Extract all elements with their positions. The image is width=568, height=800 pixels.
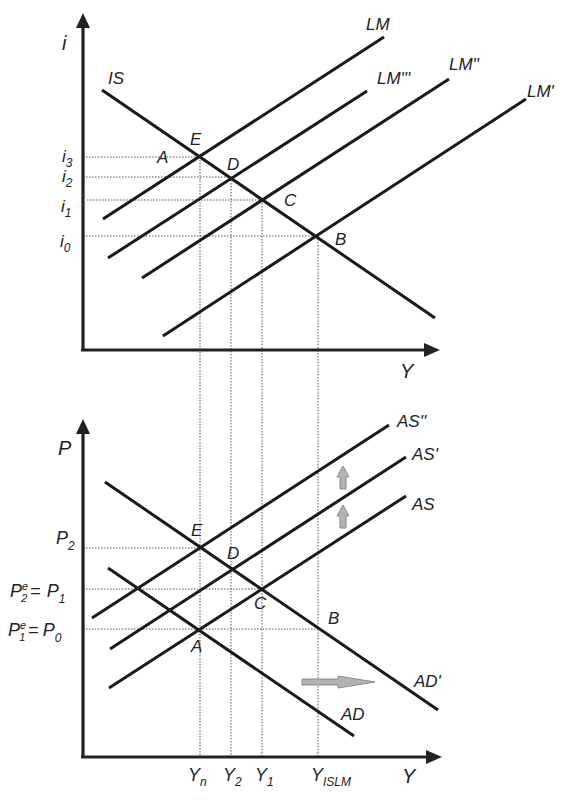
tick-yn: Yn [188,765,207,789]
guide-lines-top [83,157,318,757]
tick-y1: Y1 [255,765,274,789]
point-a-top: A [156,148,168,167]
point-e-top: E [190,130,202,149]
i-axis-label: i [62,32,67,54]
point-a-bottom: A [190,637,202,656]
shift-up-arrow-icon-2 [337,505,349,528]
ad-prime-label: AD' [413,672,442,691]
lm-double-prime-label: LM'' [449,55,480,74]
lm-prime-label: LM' [527,82,555,101]
shift-right-arrow-icon [302,676,375,688]
lm-label: LM [366,15,390,34]
y-axis-top-label: Y [400,360,415,382]
tick-y2: Y2 [223,765,242,789]
tick-p2e-eq-p1: Pe2=P1 [10,580,65,606]
as-prime-curve [110,457,406,649]
point-d-bottom: D [227,544,239,563]
tick-i1: i1 [61,197,71,220]
lm-triple-prime-curve [108,91,367,258]
shift-up-arrow-icon [337,466,349,489]
as-prime-label: AS' [411,445,439,464]
y-axis-bottom-arrowhead-icon [426,750,442,764]
point-b-top: B [335,230,346,249]
as-double-prime-label: AS'' [396,412,427,431]
tick-yislm: YISLM [311,765,351,789]
is-curve [102,90,435,318]
y-axis-bottom-label: Y [402,765,417,787]
point-b-bottom: B [328,609,339,628]
point-c-bottom: C [254,594,267,613]
point-d-top: D [227,155,239,174]
p-axis-label: P [58,437,72,459]
lm-curve [103,37,384,219]
is-label: IS [108,69,125,88]
islm-panel: i Y IS LM LM''' LM'' LM' E A D C B i3 i2… [60,13,555,757]
ad-curve [108,568,354,736]
asad-panel: P Y AS'' AS' AS AD' AD E D C B A P2 Pe2=… [8,412,442,789]
i-axis-arrowhead-icon [76,13,90,28]
lm-prime-curve [163,99,526,336]
lm-triple-prime-label: LM''' [377,69,411,88]
as-label: AS [411,495,435,514]
point-e-bottom: E [191,521,203,540]
y-axis-top-arrowhead-icon [424,343,440,357]
ad-label: AD [340,705,365,724]
tick-p1e-eq-p0: Pe1=P0 [8,619,62,645]
point-c-top: C [284,191,297,210]
p-axis-arrowhead-icon [76,419,90,434]
tick-i0: i0 [60,232,71,255]
is-lm-as-ad-diagram: i Y IS LM LM''' LM'' LM' E A D C B i3 i2… [0,0,568,800]
ad-prime-curve [105,482,438,710]
tick-i2: i2 [62,167,73,190]
tick-p2: P2 [56,528,75,553]
